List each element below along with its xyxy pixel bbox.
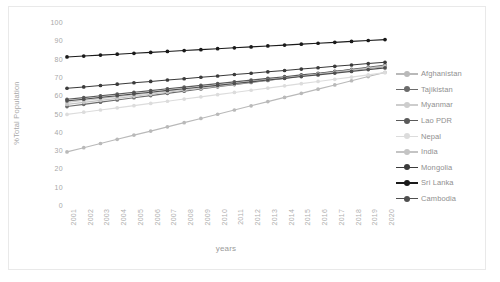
data-point [216,93,220,97]
data-point [166,89,170,93]
data-point [82,146,86,150]
data-point [132,51,136,55]
legend-swatch-icon [396,147,418,156]
data-point [132,104,136,108]
data-point [199,117,203,121]
data-point [99,108,103,112]
data-point [283,69,287,73]
data-point [132,133,136,137]
legend-marker-dot [404,102,410,108]
legend-marker-dot [404,196,410,202]
legend-label: Sri Lanka [421,178,454,187]
data-point [233,82,237,86]
data-point [299,42,303,46]
data-point [182,97,186,101]
legend-marker-dot [404,149,410,155]
series-line [67,40,385,57]
data-point [166,125,170,129]
data-point [299,92,303,96]
data-point [350,70,354,74]
legend-marker-dot [404,86,410,92]
data-point [266,100,270,104]
data-point [199,75,203,79]
chart-figure: %Total Population years 1009080706050403… [0,0,500,282]
data-point [316,66,320,70]
legend-swatch-icon [396,163,418,172]
data-point [249,80,253,84]
data-point [99,142,103,146]
data-point [65,55,69,59]
legend-item-afghanistan[interactable]: Afghanistan [396,66,492,82]
legend-swatch-icon [396,85,418,94]
legend-label: Mongolia [421,163,452,172]
data-point [115,94,119,98]
data-point [266,86,270,90]
data-point [115,82,119,86]
legend-label: Afghanistan [421,69,462,78]
data-point [149,51,153,55]
data-point [333,71,337,75]
data-point [316,73,320,77]
data-point [115,52,119,56]
data-point [266,44,270,48]
legend-item-nepal[interactable]: Nepal [396,128,492,144]
data-point [316,41,320,45]
legend-item-sri-lanka[interactable]: Sri Lanka [396,175,492,191]
legend-swatch-icon [396,100,418,109]
data-point [333,77,337,81]
data-point [283,84,287,88]
legend-item-myanmar[interactable]: Myanmar [396,97,492,113]
data-point [383,66,387,70]
data-point [182,121,186,125]
data-point [233,73,237,77]
data-point [115,106,119,110]
legend-marker-dot [404,180,410,186]
data-point [233,91,237,95]
legend-label: Myanmar [421,100,453,109]
data-point [383,71,387,75]
legend-marker-dot [404,133,410,139]
data-point [249,88,253,92]
data-point [65,99,69,103]
data-point [216,74,220,78]
data-point [366,73,370,77]
series-nepal [65,71,387,116]
legend-label: Tajikistan [421,85,453,94]
legend-swatch-icon [396,132,418,141]
legend-marker-dot [404,164,410,170]
data-point [350,79,354,83]
data-point [65,150,69,154]
data-point [316,87,320,91]
data-point [216,47,220,51]
data-point [65,86,69,90]
series-line [67,66,385,104]
data-point [166,78,170,82]
data-point [182,77,186,81]
data-point [366,62,370,66]
data-point [82,97,86,101]
data-point [299,82,303,86]
series-line [67,73,385,115]
legend-label: Lao PDR [421,116,452,125]
data-point [216,112,220,116]
data-point [333,83,337,87]
data-point [115,137,119,141]
data-point [99,96,103,100]
data-point [82,54,86,58]
legend-label: Nepal [421,132,441,141]
data-point [299,67,303,71]
data-point [266,78,270,82]
data-point [383,60,387,64]
legend-item-india[interactable]: India [396,144,492,160]
legend-item-lao-pdr[interactable]: Lao PDR [396,113,492,129]
data-point [249,104,253,108]
legend-item-tajikistan[interactable]: Tajikistan [396,82,492,98]
data-point [199,48,203,52]
data-point [366,68,370,72]
legend-item-mongolia[interactable]: Mongolia [396,160,492,176]
legend-swatch-icon [396,116,418,125]
data-point [233,108,237,112]
chart-legend: AfghanistanTajikistanMyanmarLao PDRNepal… [396,66,492,206]
legend-item-cambodia[interactable]: Cambodia [396,191,492,207]
data-point [350,40,354,44]
